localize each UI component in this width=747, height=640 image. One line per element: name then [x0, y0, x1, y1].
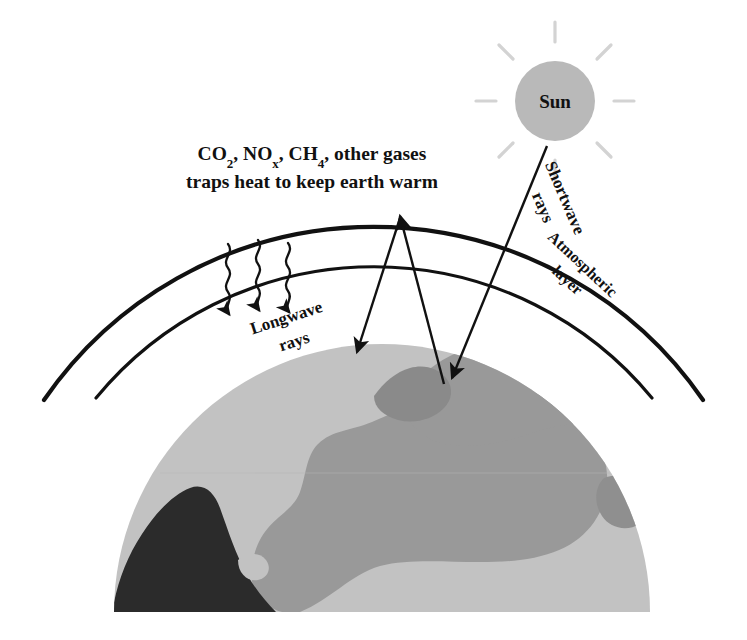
longwave-rays-line2: rays	[276, 328, 312, 356]
sun-group: Sun	[476, 22, 634, 180]
caption-tail: , other gases	[324, 143, 426, 164]
caption-line-1: CO2, NOx, CH4, other gases	[198, 143, 427, 171]
caption-co2-base: CO	[198, 143, 227, 164]
greenhouse-effect-diagram: Sun	[0, 0, 747, 640]
caption-sep-1: ,	[233, 143, 243, 164]
diagram-canvas: Sun	[0, 0, 747, 640]
atmospheric-layer-line1: Atmospheric	[544, 228, 621, 301]
reflected-ray-downward	[357, 218, 400, 352]
caption-nox-base: NO	[243, 143, 272, 164]
sun-label: Sun	[539, 91, 571, 112]
caption-line-2: traps heat to keep earth warm	[186, 171, 438, 192]
longwave-rays-line1: Longwave	[248, 297, 325, 338]
caption-sep-2: ,	[279, 143, 289, 164]
earth-group	[112, 340, 652, 614]
greenhouse-caption: CO2, NOx, CH4, other gases traps heat to…	[186, 143, 438, 192]
longwave-wave-2	[256, 240, 260, 310]
caption-ch4-base: CH	[289, 143, 318, 164]
